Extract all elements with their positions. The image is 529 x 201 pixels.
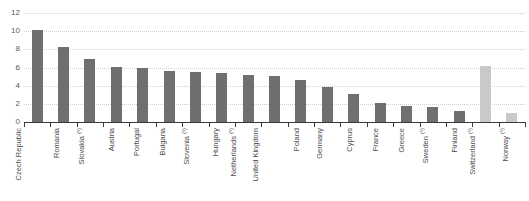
- x-label-slot: Slovakia (¹): [77, 128, 103, 201]
- x-tick: [129, 122, 130, 127]
- x-label-slot: Sweden (¹): [420, 128, 446, 201]
- x-tick: [182, 122, 183, 127]
- y-tick-label: 2: [0, 100, 20, 108]
- bar-slot: [130, 13, 156, 122]
- x-tick-label: Romania: [53, 128, 61, 158]
- bar-slot: [367, 13, 393, 122]
- x-tick-label: United Kingdom: [252, 128, 260, 181]
- x-tick: [525, 122, 526, 127]
- bar: [190, 72, 201, 122]
- bar: [295, 80, 306, 122]
- x-tick-label: Austria: [109, 128, 117, 151]
- bar-chart: 024681012 Czech RepublicRomaniaSlovakia …: [0, 0, 529, 201]
- x-label-slot: Romania: [50, 128, 76, 201]
- x-label-slot: Bulgaria: [156, 128, 182, 201]
- x-label-slot: Czech Republic: [24, 128, 50, 201]
- bar: [375, 103, 386, 122]
- x-label-slot: Cyprus: [341, 128, 367, 201]
- x-tick: [24, 122, 25, 127]
- bar: [111, 67, 122, 122]
- x-axis-ticks: [24, 122, 525, 127]
- x-tick-label: Hungary: [212, 128, 220, 156]
- bar-slot: [50, 13, 76, 122]
- bar: [480, 66, 491, 122]
- x-label-slot: France: [367, 128, 393, 201]
- x-tick: [209, 122, 210, 127]
- bar: [427, 107, 438, 122]
- bar: [216, 73, 227, 122]
- bar: [322, 87, 333, 122]
- x-tick-label: Cyprus: [346, 128, 354, 152]
- x-tick: [156, 122, 157, 127]
- x-label-slot: Greece: [393, 128, 419, 201]
- x-tick-label: Netherlands (¹): [228, 128, 238, 177]
- bar: [137, 68, 148, 123]
- x-tick: [77, 122, 78, 127]
- x-label-slot: Slovenia (¹): [182, 128, 208, 201]
- x-tick: [367, 122, 368, 127]
- x-tick: [261, 122, 262, 127]
- y-tick-label: 4: [0, 82, 20, 90]
- bar: [32, 30, 43, 122]
- x-tick-label: Sweden (¹): [419, 128, 429, 163]
- x-tick-label: Norway (¹): [499, 128, 509, 162]
- bar-slot: [103, 13, 129, 122]
- bar-series: [24, 13, 525, 122]
- x-tick-label: Slovenia (¹): [181, 128, 191, 165]
- x-tick: [393, 122, 394, 127]
- footnote-marker: (¹): [76, 128, 82, 134]
- y-tick-label: 8: [0, 45, 20, 53]
- x-tick: [288, 122, 289, 127]
- x-label-slot: Portugal: [130, 128, 156, 201]
- x-tick-label: Slovakia (¹): [76, 128, 86, 164]
- bar: [454, 111, 465, 122]
- bar-slot: [472, 13, 498, 122]
- bar-slot: [288, 13, 314, 122]
- y-axis: 024681012: [0, 13, 20, 122]
- x-label-slot: Switzerland (¹): [472, 128, 498, 201]
- bar: [401, 106, 412, 122]
- bar-slot: [393, 13, 419, 122]
- x-tick: [235, 122, 236, 127]
- x-tick-label: Germany: [316, 128, 324, 159]
- x-label-slot: United Kingdom: [261, 128, 287, 201]
- bar-slot: [261, 13, 287, 122]
- x-label-slot: Austria: [103, 128, 129, 201]
- x-tick-label: Portugal: [133, 128, 141, 156]
- x-label-slot: Poland: [288, 128, 314, 201]
- bar-slot: [446, 13, 472, 122]
- x-label-slot: Germany: [314, 128, 340, 201]
- bar: [348, 94, 359, 122]
- x-tick-label: Poland: [293, 128, 301, 151]
- bar-slot: [499, 13, 525, 122]
- x-label-slot: Norway (¹): [499, 128, 525, 201]
- x-tick: [314, 122, 315, 127]
- y-tick-label: 6: [0, 64, 20, 72]
- x-tick-label: Czech Republic: [15, 128, 23, 181]
- bar-slot: [182, 13, 208, 122]
- y-tick-label: 12: [0, 9, 20, 17]
- bar: [506, 113, 517, 122]
- x-tick: [472, 122, 473, 127]
- footnote-marker: (¹): [419, 128, 425, 134]
- footnote-marker: (¹): [466, 128, 472, 134]
- x-tick-label: Switzerland (¹): [466, 128, 476, 175]
- footnote-marker: (¹): [228, 128, 234, 134]
- x-tick-label: Bulgaria: [159, 128, 167, 156]
- bar: [243, 75, 254, 122]
- bar-slot: [156, 13, 182, 122]
- x-tick: [340, 122, 341, 127]
- bar: [58, 47, 69, 122]
- bar: [164, 71, 175, 122]
- x-axis-labels: Czech RepublicRomaniaSlovakia (¹)Austria…: [24, 128, 525, 201]
- bar-slot: [314, 13, 340, 122]
- x-tick-label: France: [372, 128, 380, 151]
- x-tick: [420, 122, 421, 127]
- footnote-marker: (¹): [499, 128, 505, 134]
- bar-slot: [77, 13, 103, 122]
- bar-slot: [235, 13, 261, 122]
- y-tick-label: 10: [0, 27, 20, 35]
- footnote-marker: (¹): [181, 128, 187, 134]
- bar-slot: [209, 13, 235, 122]
- bar: [269, 76, 280, 122]
